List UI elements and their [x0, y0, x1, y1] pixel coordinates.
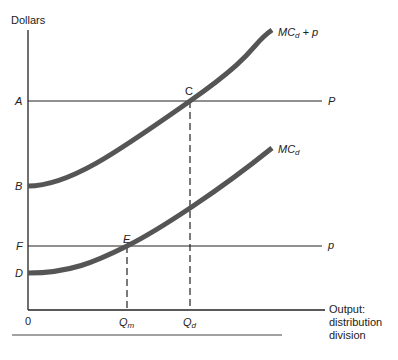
level-label-a: A: [15, 95, 22, 107]
level-label-f: F: [16, 240, 23, 252]
curve-label-mcd: MCd: [278, 143, 300, 155]
x-tick-label-qd: Qd: [183, 316, 196, 328]
x-axis-label-line-2: distribution: [329, 316, 382, 329]
curve-label-mcd-plus-p: MCd + p: [278, 26, 318, 38]
level-label-b: B: [15, 180, 22, 192]
point-label-c: C: [185, 85, 193, 97]
point-label-e: E: [123, 233, 130, 245]
origin-label: 0: [25, 315, 31, 327]
y-axis-label: Dollars: [11, 14, 45, 26]
level-label-d: D: [15, 267, 23, 279]
x-axis-label: Output: distribution division: [329, 303, 382, 342]
line-label-p: p: [328, 239, 334, 251]
x-axis-label-line-3: division: [329, 329, 382, 342]
line-label-P: P: [328, 95, 335, 107]
curve-mcd-plus-p: [28, 30, 272, 186]
curve-mcd: [28, 148, 272, 273]
x-axis-label-line-1: Output:: [329, 303, 382, 316]
x-tick-label-qm: Qm: [119, 316, 134, 328]
